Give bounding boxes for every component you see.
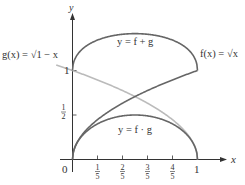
y-axis-label: y	[68, 2, 74, 13]
x-tick-label-1: 1	[194, 163, 200, 175]
curves	[56, 34, 197, 160]
product-curve-label: y = f · g	[118, 124, 153, 135]
origin-label: 0	[62, 163, 68, 175]
tick-label: 2	[62, 112, 66, 121]
f-function-label: f(x) = √x	[200, 48, 239, 60]
x-axis-arrow-icon	[220, 157, 227, 162]
g-function-label: g(x) = √1 − x	[2, 49, 59, 61]
function-plot: y x 0 1 1 g(x) = √1 − x f(x) = √x y = f …	[0, 0, 245, 185]
y-tick-label-1: 1	[64, 64, 70, 76]
curve-f-times-g	[73, 115, 198, 160]
tick-label: 5	[146, 172, 150, 181]
y-axis-arrow-icon	[70, 13, 75, 20]
sum-curve-label: y = f + g	[117, 36, 154, 47]
tick-label: 4	[171, 163, 175, 172]
tick-label: 1	[96, 163, 100, 172]
tick-label: 5	[121, 172, 125, 181]
tick-label: 1	[62, 103, 66, 112]
x-axis-label: x	[230, 153, 236, 165]
tick-label: 3	[146, 163, 150, 172]
tick-label: 5	[96, 172, 100, 181]
tick-label: 5	[171, 172, 175, 181]
tick-label: 2	[121, 163, 125, 172]
